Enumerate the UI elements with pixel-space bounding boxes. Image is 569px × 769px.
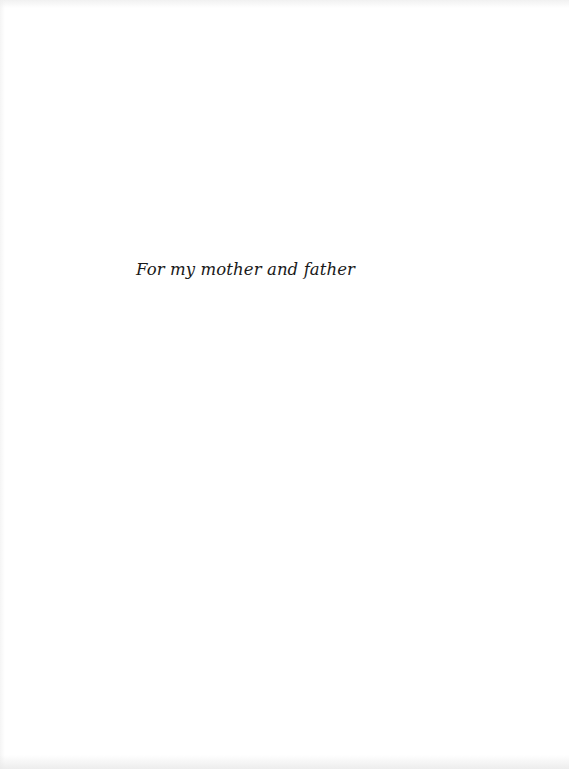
- scan-edge-bottom: [0, 755, 569, 769]
- dedication-text: For my mother and father: [136, 258, 355, 282]
- dedication-page: For my mother and father: [0, 0, 569, 769]
- scan-edge-left: [0, 0, 5, 769]
- scan-edge-top: [0, 0, 569, 8]
